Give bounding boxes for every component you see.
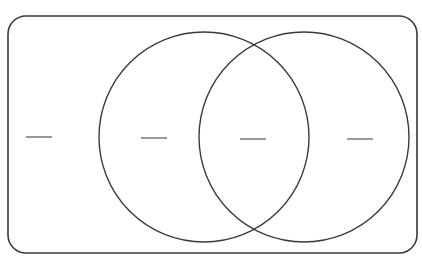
set-a-circle — [99, 32, 309, 242]
universe-rectangle — [8, 16, 417, 253]
venn-svg — [0, 0, 422, 263]
set-b-circle — [199, 32, 409, 242]
venn-diagram — [0, 0, 422, 263]
